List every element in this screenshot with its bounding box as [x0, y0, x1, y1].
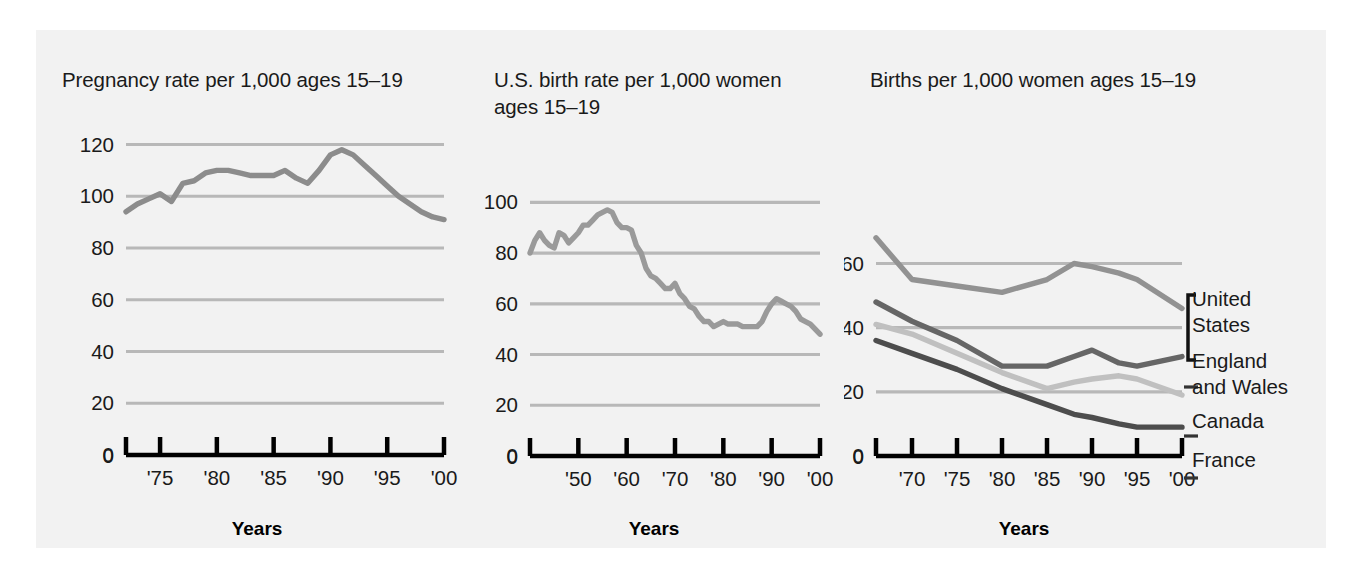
y-axis-tick-label: 100 — [484, 190, 518, 213]
x-axis-tick-label: '80 — [203, 466, 230, 489]
x-axis-tick-label: '00 — [807, 467, 834, 490]
x-axis-tick-label: '70 — [662, 467, 689, 490]
x-axis-tick-label: '85 — [260, 466, 287, 489]
x-axis-tick-label: '90 — [758, 467, 785, 490]
x-axis-tick-label: '75 — [944, 467, 971, 490]
y-axis-tick-label: 40 — [844, 316, 864, 339]
y-axis-tick-label: 80 — [495, 241, 518, 264]
x-axis-tick-label: '90 — [317, 466, 344, 489]
y-axis-tick-label: 20 — [495, 393, 518, 416]
data-line — [876, 324, 1182, 395]
chart-pregnancy-rate: Pregnancy rate per 1,000 ages 15–19 0204… — [36, 30, 468, 548]
legend-item-united-states: United States — [1192, 286, 1251, 338]
y-axis-tick-label: 100 — [80, 184, 114, 207]
chart-us-birth-rate: U.S. birth rate per 1,000 women ages 15–… — [468, 30, 844, 548]
x-axis-tick-label: '75 — [147, 466, 174, 489]
chart-births-by-country: Births per 1,000 women ages 15–19 020406… — [844, 30, 1326, 548]
data-line — [530, 210, 820, 334]
data-line — [126, 150, 444, 220]
x-axis-tick-label: '80 — [710, 467, 737, 490]
plot-area: 020406080100120'75'80'85'90'95'000 — [36, 30, 468, 548]
x-axis-label: Years — [62, 518, 452, 540]
x-axis-tick-label: '95 — [1124, 467, 1151, 490]
x-axis-label: Years — [854, 518, 1194, 540]
y-axis-tick-label: 60 — [844, 252, 864, 275]
y-axis-tick-label: 20 — [91, 391, 114, 414]
y-axis-tick-label: 60 — [91, 288, 114, 311]
y-axis-origin-label: 0 — [103, 444, 114, 467]
figure-root: Pregnancy rate per 1,000 ages 15–19 0204… — [0, 0, 1359, 570]
y-axis-tick-label: 80 — [91, 236, 114, 259]
y-axis-tick-label: 40 — [495, 343, 518, 366]
x-axis-tick-label: '90 — [1079, 467, 1106, 490]
x-axis-label: Years — [484, 518, 824, 540]
x-axis-tick-label: '50 — [565, 467, 592, 490]
plot-area: 020406080100'50'60'70'80'90'000 — [468, 30, 844, 548]
x-axis-tick-label: '80 — [989, 467, 1016, 490]
x-axis-tick-label: '60 — [613, 467, 640, 490]
y-axis-tick-label: 60 — [495, 292, 518, 315]
x-axis-tick-label: '70 — [899, 467, 926, 490]
data-line — [876, 238, 1182, 309]
y-axis-origin-label: 0 — [853, 445, 864, 468]
x-axis-tick-label: '95 — [374, 466, 401, 489]
y-axis-tick-label: 40 — [91, 340, 114, 363]
legend-item-england-and-wales: England and Wales — [1192, 348, 1288, 400]
legend-item-canada: Canada — [1192, 408, 1264, 434]
y-axis-origin-label: 0 — [507, 445, 518, 468]
x-axis-tick-label: '00 — [431, 466, 458, 489]
legend-item-france: France — [1192, 447, 1256, 473]
y-axis-tick-label: 20 — [844, 380, 864, 403]
x-axis-tick-label: '85 — [1034, 467, 1061, 490]
y-axis-tick-label: 120 — [80, 133, 114, 156]
